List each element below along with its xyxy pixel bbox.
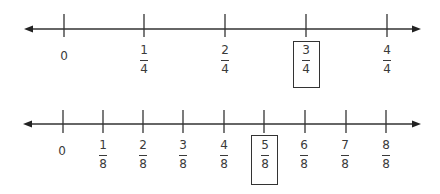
denominator: 8: [333, 158, 357, 171]
denominator: 8: [292, 158, 316, 171]
fraction-bar: [99, 155, 107, 156]
fraction-bar: [261, 155, 269, 156]
fraction-bar: [302, 60, 310, 61]
numerator: 1: [91, 139, 115, 152]
numerator: 3: [294, 44, 318, 57]
label-fraction: 48: [212, 139, 236, 171]
denominator: 8: [91, 158, 115, 171]
numerator: 8: [374, 139, 398, 152]
fraction-bar: [139, 155, 147, 156]
label-fraction: 78: [333, 139, 357, 171]
denominator: 8: [212, 158, 236, 171]
fraction-bar: [179, 155, 187, 156]
fraction-bar: [221, 60, 229, 61]
numerator: 4: [212, 139, 236, 152]
label-fraction: 18: [91, 139, 115, 171]
numerator: 2: [131, 139, 155, 152]
left-arrow-icon: [23, 121, 32, 128]
fraction-bar: [220, 155, 228, 156]
label-fraction: 28: [131, 139, 155, 171]
numerator: 5: [253, 139, 277, 152]
denominator: 8: [374, 158, 398, 171]
numerator: 6: [292, 139, 316, 152]
denominator: 8: [171, 158, 195, 171]
denominator: 4: [132, 63, 156, 76]
numerator: 4: [375, 44, 399, 57]
numerator: 7: [333, 139, 357, 152]
label-fraction: 44: [375, 44, 399, 76]
label-fraction: 24: [213, 44, 237, 76]
denominator: 8: [131, 158, 155, 171]
fraction-bar: [383, 60, 391, 61]
left-arrow-icon: [24, 26, 33, 33]
numerator: 2: [213, 44, 237, 57]
label-fraction-highlighted: 58: [253, 139, 277, 171]
fraction-bar: [140, 60, 148, 61]
label-fraction: 68: [292, 139, 316, 171]
fraction-bar: [341, 155, 349, 156]
label-fraction: 14: [132, 44, 156, 76]
number-line-eighths: [23, 110, 421, 133]
denominator: 8: [253, 158, 277, 171]
label-fraction-highlighted: 34: [294, 44, 318, 76]
right-arrow-icon: [412, 26, 421, 33]
denominator: 4: [375, 63, 399, 76]
number-line-fourths: [24, 14, 421, 37]
fraction-bar: [300, 155, 308, 156]
right-arrow-icon: [412, 121, 421, 128]
label-fraction: 88: [374, 139, 398, 171]
fraction-bar: [382, 155, 390, 156]
denominator: 4: [213, 63, 237, 76]
label-zero: 0: [50, 145, 74, 158]
label-fraction: 38: [171, 139, 195, 171]
numerator: 3: [171, 139, 195, 152]
denominator: 4: [294, 63, 318, 76]
numerator: 1: [132, 44, 156, 57]
label-zero: 0: [52, 50, 76, 63]
